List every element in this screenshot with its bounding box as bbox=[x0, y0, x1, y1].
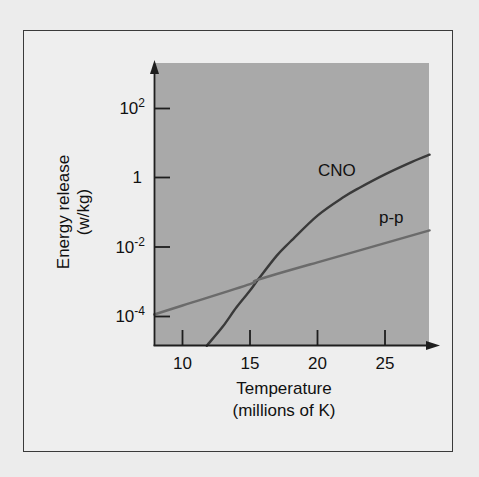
energy-release-chart: 102 1 10-2 10-4 10 15 20 25 Temperature … bbox=[0, 0, 479, 477]
x-axis-title-line1: Temperature bbox=[236, 379, 331, 398]
y-tick-label-1: 1 bbox=[133, 168, 142, 187]
x-tick-label-25: 25 bbox=[376, 354, 395, 373]
y-tick-label-1e2: 102 bbox=[119, 96, 145, 118]
y-tick-label-1e-4: 10-4 bbox=[115, 304, 145, 326]
x-axis-arrow-icon bbox=[426, 341, 440, 350]
x-tick-label-10: 10 bbox=[173, 354, 192, 373]
x-tick-label-20: 20 bbox=[308, 354, 327, 373]
pp-curve-label: p-p bbox=[379, 208, 404, 227]
x-axis-title-line2: (millions of K) bbox=[233, 401, 336, 420]
y-axis-title-line2: (w/kg) bbox=[74, 189, 93, 235]
plot-area bbox=[155, 63, 429, 345]
cno-curve-label: CNO bbox=[318, 161, 356, 180]
y-tick-label-1e-2: 10-2 bbox=[115, 235, 145, 257]
x-tick-label-15: 15 bbox=[241, 354, 260, 373]
y-axis-title-line1: Energy release bbox=[54, 155, 73, 269]
